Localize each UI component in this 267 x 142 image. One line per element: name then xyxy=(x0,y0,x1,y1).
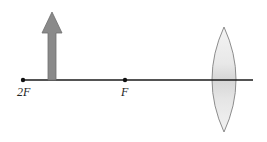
object-arrow-icon xyxy=(42,12,62,80)
focal-point-f-marker xyxy=(123,78,127,82)
optics-diagram: 2FF xyxy=(0,0,267,142)
focal-points: 2FF xyxy=(17,78,129,99)
focal-point-2f-label: 2F xyxy=(17,85,31,99)
focal-point-f-label: F xyxy=(120,85,129,99)
focal-point-2f-marker xyxy=(21,78,25,82)
